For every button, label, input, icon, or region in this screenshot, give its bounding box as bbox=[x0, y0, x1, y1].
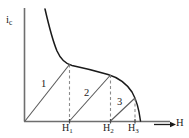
tick-label-h1: H1 bbox=[62, 123, 73, 135]
load-line-1 bbox=[25, 65, 70, 122]
tick-label-h3: H3 bbox=[128, 123, 139, 135]
region-label-1: 1 bbox=[41, 79, 46, 90]
load-line-2 bbox=[70, 75, 111, 121]
x-axis-arrow-icon bbox=[154, 122, 176, 127]
tick-label-h3-subscript: 3 bbox=[135, 127, 139, 135]
x-axis-label: H bbox=[176, 118, 184, 129]
load-line-3 bbox=[111, 98, 136, 121]
tick-label-h1-subscript: 1 bbox=[69, 127, 73, 135]
tick-label-h2: H2 bbox=[103, 123, 114, 135]
plot-canvas bbox=[0, 0, 189, 138]
figure-container: ic H H1 H2 H3 1 2 3 bbox=[0, 0, 189, 138]
y-axis-label-subscript: c bbox=[9, 18, 12, 27]
tick-label-h2-subscript: 2 bbox=[110, 127, 114, 135]
region-label-2: 2 bbox=[84, 88, 89, 99]
y-axis-label: ic bbox=[6, 14, 12, 26]
critical-current-curve bbox=[45, 9, 141, 121]
region-label-3: 3 bbox=[117, 97, 122, 108]
